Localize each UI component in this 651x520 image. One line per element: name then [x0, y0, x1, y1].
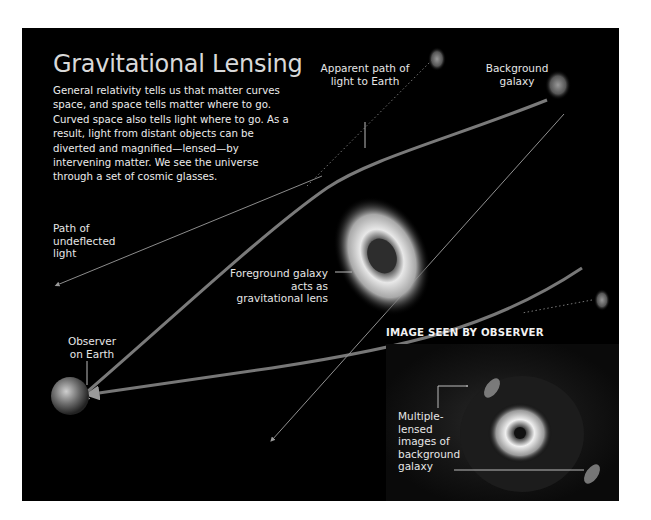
label-foreground-galaxy: Foreground galaxy acts as gravitational …	[222, 267, 328, 305]
intro-paragraph: General relativity tells us that matter …	[53, 84, 293, 185]
page-title: Gravitational Lensing	[53, 50, 302, 78]
label-apparent-path: Apparent path of light to Earth	[320, 62, 410, 87]
background-galaxy-right	[594, 289, 610, 311]
label-observer: Observer on Earth	[62, 335, 122, 360]
label-undeflected: Path of undeflected light	[53, 222, 123, 260]
diagram-panel: Gravitational Lensing General relativity…	[22, 28, 619, 501]
foreground-galaxy	[315, 181, 449, 331]
earth	[51, 377, 89, 415]
label-multiple-images: Multiple-lensed images of background gal…	[398, 410, 468, 473]
apparent-path-dotted-2	[522, 300, 592, 313]
label-image-seen: IMAGE SEEN BY OBSERVER	[386, 327, 544, 340]
label-background-galaxy: Background galaxy	[477, 62, 557, 87]
background-galaxy-top	[428, 47, 446, 71]
